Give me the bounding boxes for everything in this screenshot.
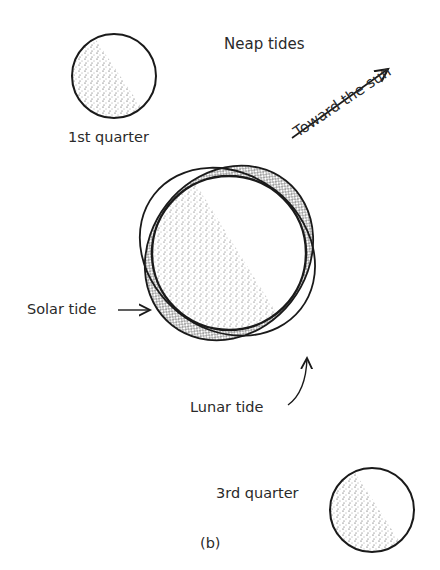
panel-label: (b) <box>200 535 221 551</box>
figure-title: Neap tides <box>224 35 305 53</box>
lunar-tide-pointer <box>288 358 307 405</box>
earth <box>106 132 349 374</box>
moon-third-quarter <box>330 468 414 552</box>
moon-first-quarter <box>72 34 156 118</box>
solar-tide-label: Solar tide <box>27 301 96 317</box>
moon-third-quarter-label: 3rd quarter <box>216 485 299 501</box>
lunar-tide-label: Lunar tide <box>190 399 264 415</box>
moon-first-quarter-label: 1st quarter <box>68 129 149 145</box>
